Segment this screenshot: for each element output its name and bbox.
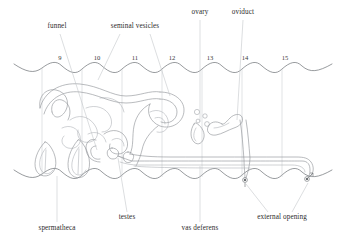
label-ovary: ovary (192, 8, 209, 16)
label-oviduct: oviduct (232, 8, 254, 16)
diagram-canvas (0, 0, 346, 245)
segment-number-14: 14 (242, 54, 249, 61)
segment-number-11: 11 (132, 54, 138, 61)
funnel-organ (86, 139, 100, 162)
segment-number-13: 13 (207, 54, 214, 61)
spermatheca-left-organ (35, 142, 56, 176)
segment-number-10: 10 (94, 54, 101, 61)
label-seminal-vesicles: seminal vesicles (111, 22, 160, 30)
segment-number-15: 15 (282, 54, 289, 61)
female-gonopore-symbol (243, 178, 248, 187)
seminal-vesicles-organ (40, 84, 184, 166)
reproductive-system-figure: funnel seminal vesicles ovary oviduct 9 … (0, 0, 346, 245)
label-spermatheca: spermatheca (38, 224, 75, 232)
label-funnel: funnel (48, 22, 67, 30)
label-vas-deferens: vas deferens (182, 224, 219, 232)
segment-number-12: 12 (169, 54, 176, 61)
male-gonopore-symbol (305, 173, 313, 181)
ventral-body-wall (14, 168, 332, 178)
dorsal-body-wall (14, 62, 332, 72)
label-testes: testes (119, 213, 136, 221)
segment-number-9: 9 (58, 54, 61, 61)
label-external-opening: external opening (257, 213, 307, 221)
vas-deferens-organ (118, 154, 313, 178)
